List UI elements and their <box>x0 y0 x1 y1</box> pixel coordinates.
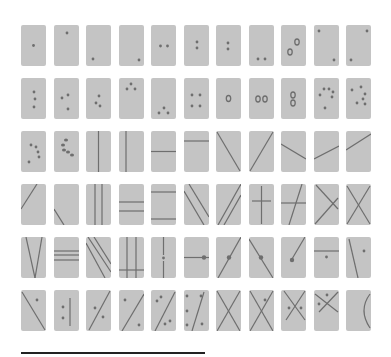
pattern-card <box>184 237 209 278</box>
pattern-card <box>314 25 339 66</box>
pattern-card <box>314 290 339 331</box>
pattern-card <box>346 290 371 331</box>
pattern-card <box>184 290 209 331</box>
pattern-card <box>249 131 274 172</box>
pattern-card <box>54 184 79 225</box>
pattern-card <box>281 184 306 225</box>
pattern-card <box>86 184 111 225</box>
pattern-card <box>216 131 241 172</box>
pattern-card <box>216 25 241 66</box>
pattern-card <box>281 131 306 172</box>
pattern-card <box>54 78 79 119</box>
pattern-card <box>184 25 209 66</box>
pattern-card <box>249 184 274 225</box>
pattern-card <box>21 131 46 172</box>
pattern-card <box>184 184 209 225</box>
pattern-card <box>281 290 306 331</box>
pattern-card <box>86 25 111 66</box>
pattern-card <box>346 78 371 119</box>
pattern-card <box>86 290 111 331</box>
pattern-card <box>151 290 176 331</box>
pattern-card <box>281 237 306 278</box>
pattern-card <box>21 184 46 225</box>
pattern-card <box>151 131 176 172</box>
pattern-card <box>346 131 371 172</box>
pattern-card <box>314 78 339 119</box>
pattern-card <box>184 131 209 172</box>
pattern-card <box>86 78 111 119</box>
pattern-card <box>119 131 144 172</box>
pattern-card <box>119 184 144 225</box>
pattern-card <box>86 237 111 278</box>
pattern-card <box>151 78 176 119</box>
pattern-card <box>281 78 306 119</box>
pattern-card <box>216 184 241 225</box>
pattern-card <box>54 237 79 278</box>
pattern-card <box>21 237 46 278</box>
pattern-card <box>346 184 371 225</box>
pattern-card <box>54 131 79 172</box>
pattern-card <box>54 25 79 66</box>
pattern-card <box>21 78 46 119</box>
pattern-card <box>54 290 79 331</box>
pattern-card <box>119 25 144 66</box>
pattern-card <box>151 25 176 66</box>
pattern-card <box>281 25 306 66</box>
pattern-card <box>216 78 241 119</box>
pattern-card <box>346 237 371 278</box>
pattern-card <box>314 184 339 225</box>
pattern-card <box>314 131 339 172</box>
pattern-card <box>119 237 144 278</box>
scale-bar <box>21 352 205 354</box>
pattern-card <box>21 25 46 66</box>
pattern-card <box>119 78 144 119</box>
pattern-card <box>249 78 274 119</box>
pattern-card <box>151 237 176 278</box>
pattern-card <box>249 237 274 278</box>
pattern-card <box>21 290 46 331</box>
pattern-card <box>249 290 274 331</box>
pattern-card <box>151 184 176 225</box>
card-grid <box>0 0 391 340</box>
pattern-card <box>216 237 241 278</box>
pattern-card <box>314 237 339 278</box>
pattern-card <box>86 131 111 172</box>
pattern-card <box>346 25 371 66</box>
pattern-card <box>119 290 144 331</box>
pattern-card <box>184 78 209 119</box>
pattern-card <box>249 25 274 66</box>
pattern-card <box>216 290 241 331</box>
